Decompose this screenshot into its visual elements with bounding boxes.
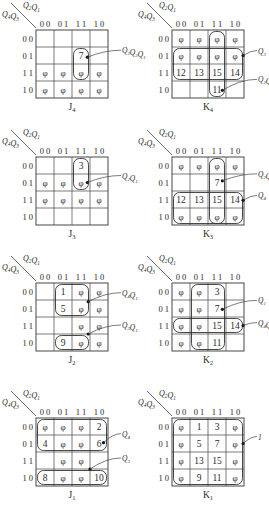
dont-care-cell: φ (178, 161, 183, 171)
col-var-label: Q2Q1 (159, 254, 176, 266)
dont-care-cell: φ (60, 178, 65, 188)
col-var-label: Q2Q1 (159, 1, 176, 13)
col-var-label: Q2Q1 (159, 389, 176, 401)
row-code: 0 0 (22, 422, 33, 432)
minterm-cell: 13 (194, 456, 204, 466)
dont-care-cell: φ (178, 439, 183, 449)
dont-care-cell: φ (96, 287, 101, 297)
term-label: Q2Q1 (122, 172, 138, 184)
term-label: Q3 (258, 47, 266, 57)
row-code: 1 1 (158, 68, 169, 78)
col-code: 1 1 (212, 146, 223, 156)
leader-line (222, 174, 257, 181)
dont-care-cell: φ (196, 212, 201, 222)
leader-line (87, 50, 121, 57)
dont-care-cell: φ (78, 195, 83, 205)
row-code: 0 1 (158, 178, 169, 188)
col-code: 0 1 (58, 19, 69, 29)
term-label: Q3 (122, 454, 130, 464)
minterm-cell: 5 (197, 439, 202, 449)
dont-care-cell: φ (42, 68, 47, 78)
row-code: 0 1 (158, 439, 169, 449)
row-code: 0 0 (22, 287, 33, 297)
kmap-j1: Q2Q1Q4Q30 00 11 11 00 00 11 11 0φφφ24φφ6… (2, 389, 130, 501)
dont-care-cell: φ (60, 195, 65, 205)
minterm-cell: 13 (194, 195, 204, 205)
kmap-j3: Q2Q1Q4Q30 00 11 11 00 00 11 11 03φφφφφφφ… (2, 128, 138, 240)
map-title: K2 (203, 355, 213, 366)
dont-care-cell: φ (196, 321, 201, 331)
leader-line (88, 325, 121, 334)
dont-care-cell: φ (78, 321, 83, 331)
minterm-cell: 12 (176, 195, 186, 205)
minterm-cell: 2 (97, 422, 102, 432)
minterm-cell: 8 (43, 473, 48, 483)
dont-care-cell: φ (96, 178, 101, 188)
col-code: 1 0 (230, 272, 241, 282)
minterm-cell: 15 (212, 321, 222, 331)
kmap-k1: Q2Q1Q4Q30 00 11 11 00 00 11 11 0φ13φφ57φ… (138, 389, 262, 501)
dont-care-cell: φ (214, 34, 219, 44)
row-code: 1 1 (158, 195, 169, 205)
col-code: 1 0 (230, 146, 241, 156)
dont-care-cell: φ (78, 178, 83, 188)
col-code: 1 0 (94, 19, 105, 29)
dont-care-cell: φ (232, 439, 237, 449)
minterm-cell: 4 (43, 439, 48, 449)
dont-care-cell: φ (178, 456, 183, 466)
term-label: Q4Q1 (122, 289, 138, 301)
minterm-cell: 5 (61, 304, 66, 314)
row-code: 1 0 (158, 473, 169, 483)
leader-line (243, 51, 257, 56)
col-var-label: Q2Q1 (159, 128, 176, 140)
col-code: 0 1 (58, 146, 69, 156)
term-label: Q2Q1 (258, 75, 269, 87)
dont-care-cell: φ (42, 422, 47, 432)
minterm-cell: 15 (212, 456, 222, 466)
dont-care-cell: φ (178, 304, 183, 314)
dont-care-cell: φ (42, 178, 47, 188)
col-code: 0 0 (176, 407, 187, 417)
map-title: J1 (69, 490, 76, 501)
col-code: 1 1 (212, 19, 223, 29)
col-var-label: Q2Q1 (23, 389, 40, 401)
row-code: 0 1 (22, 439, 33, 449)
map-title: K3 (203, 229, 213, 240)
minterm-cell: 1 (197, 422, 202, 432)
row-code: 1 0 (22, 338, 33, 348)
row-code: 1 1 (158, 321, 169, 331)
dont-care-cell: φ (196, 161, 201, 171)
term-label: Q4 (258, 191, 266, 201)
minterm-cell: 7 (79, 51, 84, 61)
minterm-cell: 14 (230, 195, 240, 205)
row-code: 1 1 (22, 456, 33, 466)
dont-care-cell: φ (178, 51, 183, 61)
col-code: 0 0 (40, 146, 51, 156)
row-code: 1 1 (22, 68, 33, 78)
dont-care-cell: φ (96, 68, 101, 78)
row-var-label: Q4Q3 (2, 398, 19, 410)
minterm-cell: 3 (215, 422, 220, 432)
col-code: 0 1 (194, 146, 205, 156)
dont-care-cell: φ (78, 456, 83, 466)
minterm-cell: 7 (215, 304, 220, 314)
row-code: 1 0 (158, 85, 169, 95)
dont-care-cell: φ (60, 85, 65, 95)
dont-care-cell: φ (78, 338, 83, 348)
row-code: 1 1 (158, 456, 169, 466)
dont-care-cell: φ (232, 212, 237, 222)
row-var-label: Q4Q3 (2, 10, 19, 22)
col-code: 0 1 (58, 407, 69, 417)
dont-care-cell: φ (78, 287, 83, 297)
row-code: 0 0 (22, 161, 33, 171)
dont-care-cell: φ (232, 34, 237, 44)
dont-care-cell: φ (196, 287, 201, 297)
col-code: 1 1 (212, 407, 223, 417)
row-code: 0 1 (22, 178, 33, 188)
row-code: 1 0 (22, 85, 33, 95)
minterm-cell: 3 (215, 287, 220, 297)
row-code: 1 1 (22, 321, 33, 331)
dont-care-cell: φ (42, 195, 47, 205)
map-title: J2 (69, 355, 76, 366)
minterm-cell: 7 (215, 439, 220, 449)
